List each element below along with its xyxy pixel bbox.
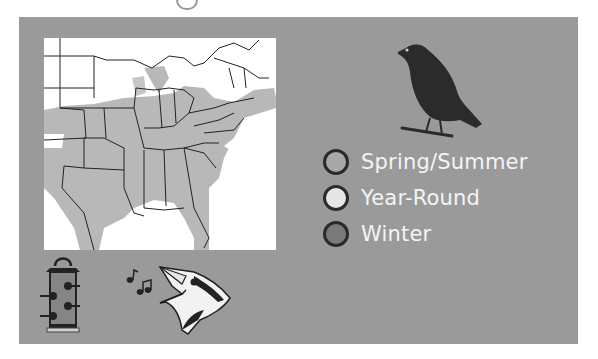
legend-item-spring-summer: Spring/Summer: [323, 144, 528, 180]
range-map-svg: [44, 38, 276, 250]
tube-feeder-icon: [38, 256, 88, 336]
legend: Spring/Summer Year-Round Winter: [323, 144, 528, 252]
legend-label: Spring/Summer: [361, 150, 528, 174]
legend-item-year-round: Year-Round: [323, 180, 528, 216]
legend-swatch-spring-summer: [323, 149, 349, 175]
music-notes-icon: [127, 270, 151, 294]
legend-swatch-winter: [323, 221, 349, 247]
legend-swatch-year-round: [323, 185, 349, 211]
legend-label: Winter: [361, 222, 431, 246]
singing-bird-head-icon: [124, 264, 234, 340]
top-fragment-glyph: [176, 0, 198, 10]
bird-silhouette-icon: [392, 42, 488, 142]
legend-item-winter: Winter: [323, 216, 528, 252]
range-map: [44, 38, 276, 250]
legend-label: Year-Round: [361, 186, 480, 210]
